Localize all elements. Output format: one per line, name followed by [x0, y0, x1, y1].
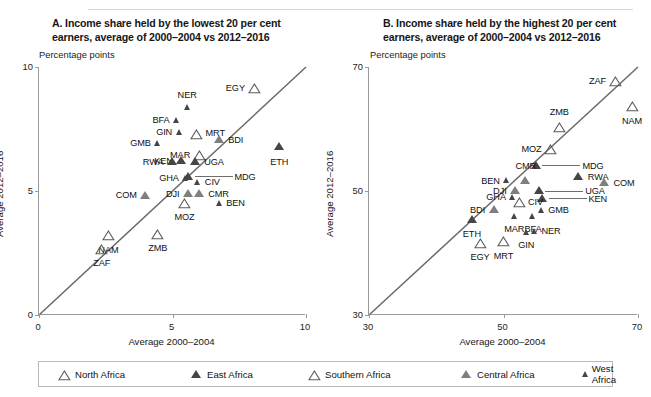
- point-label-zmb: ZMB: [529, 107, 589, 117]
- legend-label: Central Africa: [477, 369, 535, 380]
- y-tick-label: 70: [338, 61, 363, 72]
- point-label-ben: BEN: [226, 198, 286, 208]
- panel-a-units-label: Percentage points: [39, 49, 115, 60]
- point-label-moz: MOZ: [482, 144, 542, 154]
- y-tick-mark: [365, 67, 369, 68]
- chart-legend: North AfricaEast AfricaSouthern AfricaCe…: [38, 361, 613, 387]
- point-label-gmb: GMB: [91, 138, 151, 148]
- y-tick-label: 30: [338, 309, 363, 320]
- x-axis-title: Average 2000–2004: [368, 336, 637, 347]
- x-tick-mark: [306, 314, 307, 318]
- panel-a-title: A. Income share held by the lowest 20 pe…: [52, 17, 317, 44]
- x-tick-label: 70: [622, 321, 651, 332]
- legend-item-west-africa[interactable]: West Africa: [579, 363, 622, 385]
- y-tick-mark: [35, 191, 39, 192]
- legend-label: Southern Africa: [325, 369, 391, 380]
- point-label-gin: GIN: [112, 127, 172, 137]
- x-tick-label: 30: [353, 321, 383, 332]
- x-axis-title: Average 2000–2004: [38, 336, 305, 347]
- legend-item-north-africa[interactable]: North Africa: [57, 368, 125, 380]
- point-label-zaf: ZAF: [546, 76, 606, 86]
- x-tick-label: 50: [488, 321, 518, 332]
- chart-panel-b: B. Income share held by the highest 20 p…: [330, 0, 651, 350]
- point-label-ben: BEN: [440, 176, 500, 186]
- y-tick-label: 50: [338, 185, 363, 196]
- point-label-bfa: BFA: [110, 115, 170, 125]
- leader-line-uga: [545, 191, 583, 192]
- y-tick-label: 0: [8, 309, 33, 320]
- y-tick-mark: [365, 191, 369, 192]
- panel-b-title: B. Income share held by the highest 20 p…: [383, 17, 645, 44]
- legend-item-east-africa[interactable]: East Africa: [189, 368, 253, 380]
- panel-b-plot-area: ZAFNAMZMBMOZMDGRWACOMBENCMRDJIUGAKENGHAC…: [368, 67, 637, 315]
- x-tick-mark: [39, 314, 40, 318]
- point-label-gmb: GMB: [548, 205, 608, 215]
- point-label-mdg: MDG: [582, 161, 642, 171]
- point-label-ner: NER: [541, 226, 601, 236]
- panel-b-units-label: Percentage points: [370, 49, 446, 60]
- x-tick-mark: [369, 314, 370, 318]
- legend-label: East Africa: [207, 369, 253, 380]
- x-tick-mark: [504, 314, 505, 318]
- legend-label: North Africa: [75, 369, 125, 380]
- legend-item-southern-africa[interactable]: Southern Africa: [307, 368, 391, 380]
- point-label-gha: GHA: [119, 173, 179, 183]
- legend-triangle-icon: [57, 368, 71, 380]
- y-tick-mark: [35, 67, 39, 68]
- legend-triangle-icon: [307, 368, 321, 380]
- point-label-uga: UGA: [204, 157, 264, 167]
- x-tick-label: 0: [23, 321, 53, 332]
- point-label-rwa: RWA: [104, 157, 164, 167]
- legend-item-central-africa[interactable]: Central Africa: [459, 368, 535, 380]
- point-label-civ: CIV: [205, 177, 265, 187]
- y-tick-label: 10: [8, 61, 33, 72]
- point-label-moz: MOZ: [155, 212, 215, 222]
- panel-a-plot-area: EGYNERBFAGINMRTGMBBDIETHMARKENRWAUGAMDGG…: [38, 67, 305, 315]
- point-label-nam: NAM: [602, 116, 651, 126]
- point-label-gha: GHA: [446, 192, 506, 202]
- chart-panel-a: A. Income share held by the lowest 20 pe…: [0, 0, 330, 350]
- point-label-com: COM: [77, 190, 137, 200]
- point-label-mrt: MRT: [474, 251, 534, 261]
- legend-triangle-icon: [579, 368, 588, 380]
- point-label-ken: KEN: [589, 194, 649, 204]
- point-label-bdi: BDI: [425, 205, 485, 215]
- point-label-ner: NER: [157, 90, 217, 100]
- x-tick-mark: [638, 314, 639, 318]
- x-tick-mark: [173, 314, 174, 318]
- y-tick-label: 5: [8, 185, 33, 196]
- legend-triangle-icon: [459, 368, 473, 380]
- legend-triangle-icon: [189, 368, 203, 380]
- point-label-zmb: ZMB: [128, 243, 188, 253]
- point-label-cmr: CMR: [496, 161, 556, 171]
- y-axis-title: Average 2012–2016: [0, 151, 5, 237]
- y-axis-title: Average 2012–2016: [324, 151, 335, 237]
- x-tick-label: 10: [290, 321, 320, 332]
- x-tick-label: 5: [157, 321, 187, 332]
- point-label-zaf: ZAF: [72, 258, 132, 268]
- legend-label: West Africa: [592, 363, 622, 385]
